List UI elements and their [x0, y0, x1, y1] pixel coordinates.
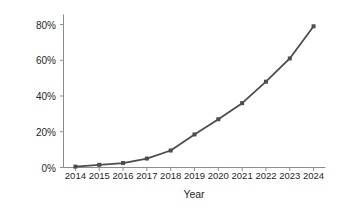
data-point-marker: 2014: 0.5%	[73, 165, 77, 169]
data-point-marker: 2015: 1.5%	[97, 163, 101, 167]
series-markers: 2014: 0.5%2015: 1.5%2016: 2.5%2017: 5%20…	[73, 24, 315, 168]
plot-area: 2014: 0.5%2015: 1.5%2016: 2.5%2017: 5%20…	[0, 0, 342, 211]
data-point-marker: 2023: 61%	[288, 56, 292, 60]
axis-lines	[64, 15, 326, 168]
x-axis-ticks	[75, 168, 313, 172]
data-point-marker: 2021: 36%	[240, 101, 244, 105]
series-line-customer-penetration	[75, 26, 313, 166]
data-point-marker: 2018: 9.5%	[169, 149, 173, 153]
chart-container: Customer penetration 0%20%40%60%80% 2014…	[0, 0, 342, 211]
data-point-marker: 2019: 18.5%	[193, 132, 197, 136]
y-axis-ticks	[60, 25, 64, 168]
data-point-marker: 2020: 27%	[216, 117, 220, 121]
data-point-marker: 2016: 2.5%	[121, 161, 125, 165]
data-point-marker: 2017: 5%	[145, 157, 149, 161]
x-axis-title: Year	[63, 188, 325, 200]
data-point-marker: 2022: 48%	[264, 80, 268, 84]
data-point-marker: 2024: 79%	[312, 24, 316, 28]
